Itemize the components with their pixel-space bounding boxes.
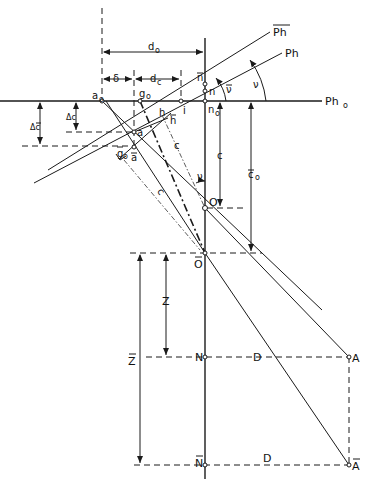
label-g0: g (139, 88, 145, 99)
label-nu: ν (253, 79, 259, 90)
label-h-bar: h (170, 115, 176, 126)
point-n (203, 89, 207, 93)
label-c-bar: c (155, 186, 167, 197)
label-ph0-sub: o (343, 101, 348, 110)
label-D-lower: D (263, 452, 271, 465)
label-nu-lower: ν (197, 171, 203, 182)
label-nu-bar: ν (226, 84, 232, 95)
label-O: O (209, 196, 218, 209)
label-ph0: Ph (325, 95, 339, 108)
point-O (203, 206, 208, 211)
label-delta-c-bar: Δc (30, 123, 40, 132)
point-a-bar (132, 145, 136, 149)
geometry-diagram: Ph Ph Ph o d o d c δ n n n o ν ν i a o g… (0, 0, 369, 479)
point-N-bar (203, 463, 207, 467)
label-O-bar: O (194, 258, 203, 271)
label-A-bar: A (352, 460, 360, 473)
label-n0: n (208, 104, 214, 115)
nu-bar-angle-arc (216, 78, 226, 101)
label-N: N (195, 351, 203, 364)
label-h: h (159, 107, 165, 118)
point-i (179, 99, 183, 103)
label-d0-sub: o (155, 46, 160, 55)
label-Z-bar: Z (128, 355, 136, 368)
label-a-bar: a (131, 152, 137, 163)
label-dc-sub: c (157, 78, 161, 87)
c-bar-dashdot-line (124, 160, 200, 250)
label-a0-sub: o (99, 95, 104, 104)
label-c-diag: c (174, 140, 180, 151)
label-g0-bar-sub: o (123, 152, 128, 161)
label-d0: d (148, 41, 154, 52)
point-g0 (138, 99, 142, 103)
O-to-A-line (205, 208, 349, 357)
point-n-bar (203, 82, 207, 86)
point-N (203, 355, 207, 359)
point-a (132, 130, 136, 134)
point-A (347, 355, 351, 359)
label-ph-bar: Ph (273, 26, 287, 39)
point-n0 (203, 99, 207, 103)
label-i: i (183, 105, 186, 116)
label-a: a (137, 127, 143, 138)
label-dc: d (150, 73, 156, 84)
label-A: A (352, 352, 360, 365)
label-c0-bar-sub: o (255, 173, 260, 182)
label-a0: a (92, 90, 98, 101)
point-A-bar (347, 463, 351, 467)
label-D-upper: D (253, 351, 261, 364)
label-g0-sub: o (146, 92, 151, 101)
point-O-bar (203, 251, 207, 255)
label-c-right: c (217, 150, 223, 161)
label-n0-sub: o (215, 109, 220, 118)
label-Z: Z (162, 295, 170, 308)
label-delta: δ (113, 73, 119, 84)
label-ph: Ph (285, 47, 299, 60)
label-N-bar: N (195, 457, 203, 470)
O-bar-to-A-bar-line (205, 253, 349, 465)
a0-to-O-bar-line (106, 101, 205, 253)
label-delta-c: Δc (66, 113, 76, 122)
label-n: n (209, 86, 215, 97)
c-dashdot-line (162, 115, 205, 208)
label-n-bar: n (197, 72, 203, 83)
label-c0-bar: c (248, 169, 254, 180)
